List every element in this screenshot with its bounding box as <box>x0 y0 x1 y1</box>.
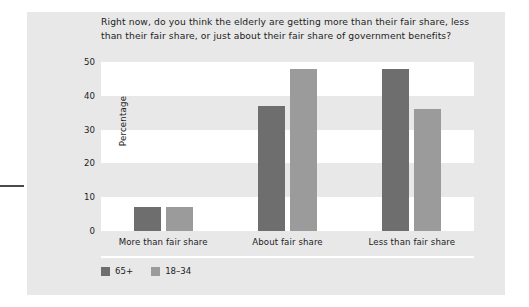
bar <box>258 106 285 231</box>
x-tick-label: More than fair share <box>119 237 208 247</box>
legend-swatch-icon <box>151 267 160 276</box>
y-tick-label: 40 <box>65 91 95 101</box>
legend-label: 18–34 <box>165 266 191 276</box>
bar <box>134 207 161 231</box>
legend-item[interactable]: 18–34 <box>151 266 191 276</box>
x-tick-label: Less than fair share <box>369 237 456 247</box>
y-axis-title: Percentage <box>118 61 128 181</box>
grid-band <box>101 62 474 96</box>
y-tick-label: 30 <box>65 125 95 135</box>
legend-item[interactable]: 65+ <box>101 266 133 276</box>
legend-swatch-icon <box>101 267 110 276</box>
y-tick-label: 20 <box>65 158 95 168</box>
plot-area: 01020304050 Percentage <box>101 62 474 231</box>
bar <box>382 69 409 231</box>
y-tick-label: 50 <box>65 57 95 67</box>
chart-legend: 65+18–34 <box>101 266 191 276</box>
legend-separator <box>101 256 474 258</box>
left-edge-rule <box>0 185 24 187</box>
bar <box>290 69 317 231</box>
chart-title: Right now, do you think the elderly are … <box>101 15 481 42</box>
y-tick-label: 10 <box>65 192 95 202</box>
chart-figure: Right now, do you think the elderly are … <box>0 0 529 307</box>
bar <box>166 207 193 231</box>
x-tick-label: About fair share <box>252 237 323 247</box>
y-tick-label: 0 <box>65 226 95 236</box>
bar <box>414 109 441 231</box>
legend-label: 65+ <box>115 266 133 276</box>
